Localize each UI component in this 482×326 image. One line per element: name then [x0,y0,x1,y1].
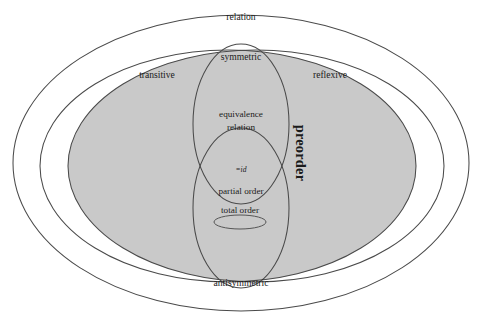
label-relation: relation [226,11,256,22]
label-partial-order: partial order [218,186,263,196]
label-reflexive: reflexive [313,69,347,80]
label-preorder: preorder [293,125,309,182]
label-identity-relation: =id [235,165,246,174]
label-symmetric: symmetric [221,51,262,62]
label-antisymmetric: antisymmetric [214,277,269,288]
label-total-order: total order [221,205,259,215]
label-transitive: transitive [139,69,175,80]
diagram-canvas: relation symmetric transitive reflexive … [0,0,482,326]
label-equivalence-line1: equivalence [219,109,263,119]
label-equivalence-line2: relation [227,122,255,132]
euler-diagram-svg: relation symmetric transitive reflexive … [0,0,482,326]
